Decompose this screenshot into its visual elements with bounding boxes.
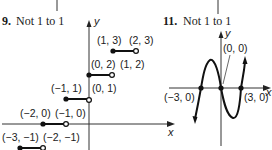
point-label: (−2, −1) <box>43 131 80 143</box>
point-label: (0, 0) <box>223 42 248 54</box>
point-label: (1, 2) <box>120 58 145 70</box>
problem-9: 9. Not 1 to 1 y x (1, 3) (2, 3) (0, 2) (… <box>2 14 175 150</box>
point-label: (−3, 0) <box>164 91 195 103</box>
y-axis-arrow-icon <box>219 31 224 38</box>
open-dot-icon <box>134 49 139 54</box>
point-label: (3, 0) <box>244 91 269 103</box>
intercept-dot-icon <box>198 85 203 90</box>
y-axis-label: y <box>224 27 232 39</box>
problem-9-number: 9. <box>2 14 11 28</box>
closed-dot-icon <box>110 48 115 53</box>
point-label: (0, 1) <box>92 82 117 94</box>
point-label: (1, 3) <box>97 34 122 46</box>
point-label: (−3, −1) <box>2 131 39 143</box>
figure: 9. Not 1 to 1 y x (1, 3) (2, 3) (0, 2) (… <box>0 0 272 150</box>
point-label: (2, 3) <box>129 34 154 46</box>
open-dot-icon <box>41 146 46 150</box>
point-label: (−2, 0) <box>20 107 51 119</box>
point-label: (−1, 1) <box>51 82 82 94</box>
closed-dot-icon <box>17 145 22 150</box>
open-dot-icon <box>87 98 92 103</box>
closed-dot-icon <box>86 72 91 77</box>
open-dot-icon <box>110 73 115 78</box>
closed-dot-icon <box>63 96 68 101</box>
problem-11-number: 11. <box>163 14 177 28</box>
intercept-dot-icon <box>218 85 223 90</box>
y-axis-arrow-icon <box>87 20 92 27</box>
x-axis-label: x <box>167 126 174 138</box>
intercept-dot-icon <box>238 85 243 90</box>
problem-9-answer: Not 1 to 1 <box>16 14 64 28</box>
problem-11-answer: Not 1 to 1 <box>183 14 231 28</box>
curve-arrow-down-icon <box>193 116 198 124</box>
y-axis-label: y <box>93 15 101 27</box>
open-dot-icon <box>64 122 69 127</box>
problem-11: 11. Not 1 to 1 y x (0, 0) (−3, 0) (3, 0) <box>163 14 272 146</box>
point-label: (0, 2) <box>91 58 116 70</box>
curve-arrow-up-icon <box>243 56 248 64</box>
leader-line <box>223 55 230 84</box>
closed-dot-icon <box>40 121 45 126</box>
point-label: (−1, 0) <box>55 107 86 119</box>
